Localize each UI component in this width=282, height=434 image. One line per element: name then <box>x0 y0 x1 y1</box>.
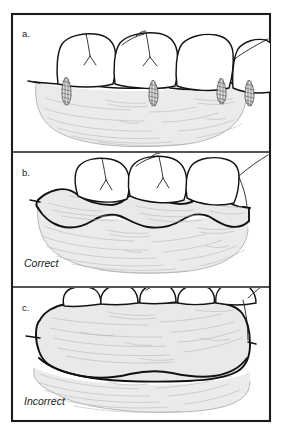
panel-c-tooth-2 <box>101 285 138 304</box>
panel-a-tooth-3 <box>176 34 233 90</box>
panel-c-tooth-1 <box>63 287 101 307</box>
panel-b-artwork <box>30 153 268 273</box>
panel-b-distal-line <box>239 155 268 176</box>
panel-b-caption: Correct <box>24 257 60 269</box>
panel-c-artwork <box>26 279 270 412</box>
panel-a-artwork <box>28 31 272 147</box>
panel-c-material-fill <box>36 301 250 381</box>
panel-a-left-tissue-tick <box>28 81 40 83</box>
panel-c-tooth-4 <box>178 285 215 304</box>
panel-a-tooth-2 <box>114 33 178 89</box>
panel-b-distal-line-2 <box>239 177 247 206</box>
figure-root: a. b. c. Correct Incorrect <box>0 0 282 434</box>
panel-b-letter: b. <box>22 167 30 178</box>
panel-b-tooth-2 <box>128 156 186 203</box>
panel-c-caption: Incorrect <box>24 395 66 407</box>
panel-b-tooth-3 <box>186 158 239 205</box>
dental-impression-figure: a. b. c. Correct Incorrect <box>0 0 282 434</box>
panel-c-letter: c. <box>22 302 29 313</box>
panel-a-letter: a. <box>22 28 30 39</box>
panel-b-tooth-1 <box>75 158 129 202</box>
